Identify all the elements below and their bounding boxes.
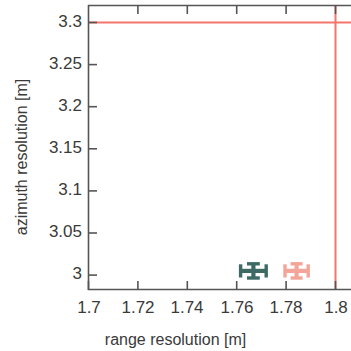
x-tick-label-1.72: 1.72	[121, 298, 154, 318]
x-axis-title: range resolution [m]	[0, 331, 351, 349]
y-tick-label-3: 3	[14, 264, 82, 284]
x-tick-label-1.7: 1.7	[77, 298, 101, 318]
x-tick-label-1.74: 1.74	[170, 298, 203, 318]
chart-figure: 3.3 3.25 3.2 3.15 3.1 3.05 3 1.7 1.72 1.…	[0, 0, 351, 351]
y-axis-title: azimuth resolution [m]	[13, 57, 31, 257]
y-tick-label-3.3: 3.3	[14, 12, 82, 32]
x-tick-label-1.76: 1.76	[220, 298, 253, 318]
plot-background	[88, 5, 351, 290]
x-tick-label-1.78: 1.78	[269, 298, 302, 318]
x-tick-label-1.8: 1.8	[324, 298, 348, 318]
